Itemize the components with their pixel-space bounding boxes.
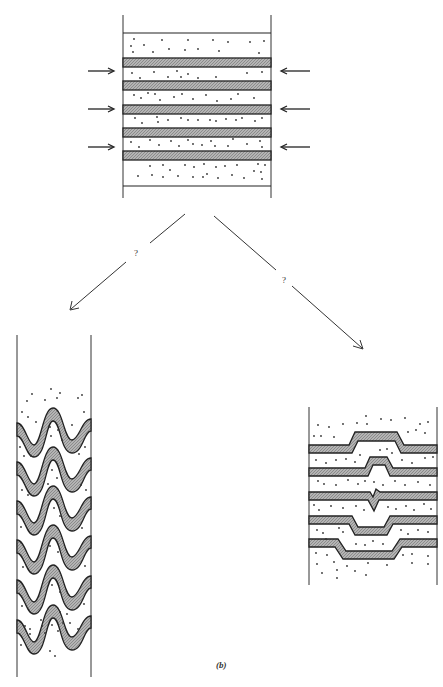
- right-offset-block: [309, 407, 437, 585]
- arrow-right-icon: [88, 144, 114, 150]
- branch-right-question-mark: ?: [282, 275, 286, 285]
- left-folded-block: [17, 335, 91, 677]
- arrow-right-icon: [88, 106, 114, 112]
- branch-left-question-mark: ?: [134, 248, 138, 258]
- arrow-left-icon: [281, 144, 310, 150]
- top-bands: [123, 58, 271, 160]
- top-block: [88, 15, 310, 198]
- arrow-right-icon: [88, 68, 114, 74]
- offset-bands: [309, 432, 437, 559]
- arrow-left-icon: [281, 106, 310, 112]
- diagram-canvas: [0, 0, 443, 687]
- branch-arrows: [70, 214, 363, 349]
- arrow-left-icon: [281, 68, 310, 74]
- figure-caption: (b): [216, 660, 227, 670]
- fold-bands: [17, 408, 91, 654]
